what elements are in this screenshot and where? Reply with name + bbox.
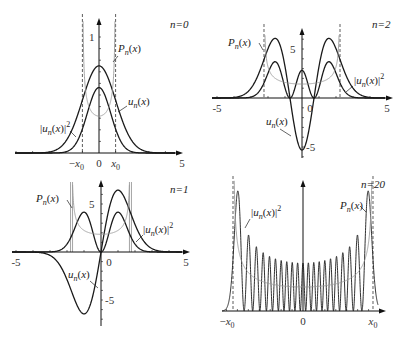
series-label: |un(x)|2	[354, 72, 384, 89]
curve-wavefunction	[212, 38, 385, 150]
y-tick-label: 5	[290, 43, 296, 55]
label-leader-line	[280, 129, 291, 136]
x-axis-arrow-icon	[183, 250, 190, 255]
panel-top-left: −x00x051n=0Pn(x)un(x)|un(x)|2	[15, 14, 189, 172]
series-label: un(x)	[128, 95, 150, 110]
y-tick-label: -5	[105, 294, 115, 306]
label-leader-line	[346, 86, 353, 92]
panel-title: n=1	[170, 183, 188, 195]
label-leader-line	[118, 106, 127, 112]
y-tick-label: -5	[306, 141, 316, 153]
series-label: Pn(x)	[117, 42, 141, 57]
series-label: un(x)	[68, 268, 90, 283]
series-label: un(x)	[266, 115, 288, 130]
x-tick-label: 0	[96, 157, 102, 169]
x-tick-label: 0	[307, 102, 313, 114]
panel-bottom-left: -5055-5n=1Pn(x)|un(x)|2un(x)	[11, 180, 190, 326]
x-tick-label: 5	[384, 102, 390, 114]
label-leader-line	[245, 219, 250, 228]
curve-probability-density	[15, 88, 175, 153]
label-leader-line	[90, 281, 98, 288]
series-label: Pn(x)	[339, 199, 363, 214]
y-tick-label: 1	[89, 31, 95, 43]
x-tick-label: -5	[11, 256, 21, 268]
series-label: Pn(x)	[227, 36, 251, 51]
y-axis-arrow-icon	[97, 18, 102, 25]
x-tick-label: −x0	[69, 157, 84, 172]
x-tick-label: 0	[106, 256, 112, 268]
panel-title: n=20	[361, 178, 385, 190]
panel-top-right: -5055-5n=2Pn(x)|un(x)|2un(x)	[212, 18, 393, 158]
x-tick-label: -5	[212, 102, 222, 114]
x-axis-arrow-icon	[176, 151, 183, 156]
y-tick-label: 5	[89, 198, 95, 210]
x-tick-label: 0	[300, 315, 306, 327]
y-axis-arrow-icon	[300, 28, 305, 35]
panel-title: n=2	[372, 18, 391, 30]
label-leader-line	[70, 131, 76, 137]
y-axis-arrow-icon	[99, 180, 104, 187]
x-tick-label: 5	[183, 256, 189, 268]
series-label: |un(x)|2	[251, 204, 281, 221]
figure-quantum-oscillator: −x00x051n=0Pn(x)un(x)|un(x)|2-5055-5n=2P…	[0, 0, 405, 337]
x-tick-label: x0	[368, 315, 378, 330]
x-tick-label: 5	[179, 157, 185, 169]
x-axis-arrow-icon	[379, 309, 386, 314]
x-tick-label: −x0	[219, 315, 234, 330]
x-tick-label: x0	[110, 157, 120, 172]
series-label: Pn(x)	[35, 192, 59, 207]
label-leader-line	[67, 200, 72, 208]
curve-wavefunction	[15, 66, 175, 153]
y-axis-arrow-icon	[301, 180, 306, 187]
figure-canvas: −x00x051n=0Pn(x)un(x)|un(x)|2-5055-5n=2P…	[0, 0, 405, 337]
series-label: |un(x)|2	[40, 120, 70, 137]
panel-bottom-right: −x00x0n=20Pn(x)|un(x)|2	[219, 176, 386, 330]
series-label: |un(x)|2	[143, 221, 173, 238]
label-leader-line	[259, 43, 263, 50]
panel-title: n=0	[170, 18, 189, 30]
